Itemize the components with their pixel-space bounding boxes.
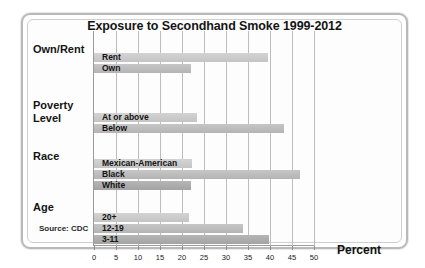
bar-label-white: White bbox=[102, 181, 125, 190]
x-tick-mark bbox=[204, 246, 205, 250]
bar-label-20-: 20+ bbox=[102, 213, 116, 222]
x-tick-mark bbox=[160, 246, 161, 250]
group-label-line: Poverty bbox=[33, 99, 95, 112]
x-tick-label: 0 bbox=[92, 253, 96, 262]
x-tick-label: 50 bbox=[310, 253, 318, 262]
group-label-line: Level bbox=[33, 112, 95, 125]
x-tick-mark bbox=[314, 246, 315, 250]
bar-label-black: Black bbox=[102, 170, 125, 179]
plot-area: 05101520253035404550RentOwnAt or aboveBe… bbox=[93, 31, 314, 246]
gridline bbox=[314, 31, 315, 246]
group-label-own-rent: Own/Rent bbox=[33, 43, 95, 56]
x-tick-mark bbox=[94, 246, 95, 250]
bar-label-3-11: 3-11 bbox=[102, 235, 119, 244]
chart-frame: Exposure to Secondhand Smoke 1999-2012 0… bbox=[21, 13, 408, 249]
bar-label-below: Below bbox=[102, 124, 127, 133]
x-tick-label: 5 bbox=[114, 253, 118, 262]
x-tick-mark bbox=[182, 246, 183, 250]
x-tick-mark bbox=[116, 246, 117, 250]
gridline bbox=[204, 31, 205, 246]
x-tick-label: 25 bbox=[200, 253, 208, 262]
gridline bbox=[292, 31, 293, 246]
x-axis-title: Percent bbox=[337, 243, 381, 257]
x-tick-mark bbox=[226, 246, 227, 250]
bar-label-12-19: 12-19 bbox=[102, 224, 124, 233]
x-tick-label: 30 bbox=[222, 253, 230, 262]
group-label-race: Race bbox=[33, 150, 95, 163]
gridline bbox=[270, 31, 271, 246]
x-tick-label: 20 bbox=[178, 253, 186, 262]
x-tick-mark bbox=[138, 246, 139, 250]
gridline bbox=[226, 31, 227, 246]
x-tick-label: 40 bbox=[266, 253, 274, 262]
x-tick-mark bbox=[248, 246, 249, 250]
x-tick-mark bbox=[270, 246, 271, 250]
x-tick-mark bbox=[292, 246, 293, 250]
x-tick-label: 35 bbox=[244, 253, 252, 262]
bar-3-11 bbox=[94, 235, 269, 244]
bar-label-own: Own bbox=[102, 64, 120, 73]
x-tick-label: 45 bbox=[288, 253, 296, 262]
bar-label-rent: Rent bbox=[102, 53, 121, 62]
bar-label-mexican-american: Mexican-American bbox=[102, 159, 177, 168]
group-label-poverty-level: PovertyLevel bbox=[33, 99, 95, 124]
x-tick-label: 10 bbox=[134, 253, 142, 262]
source-note: Source: CDC bbox=[39, 224, 88, 233]
gridline bbox=[248, 31, 249, 246]
group-label-age: Age bbox=[33, 201, 95, 214]
bar-label-at-or-above: At or above bbox=[102, 113, 149, 122]
x-tick-label: 15 bbox=[156, 253, 164, 262]
